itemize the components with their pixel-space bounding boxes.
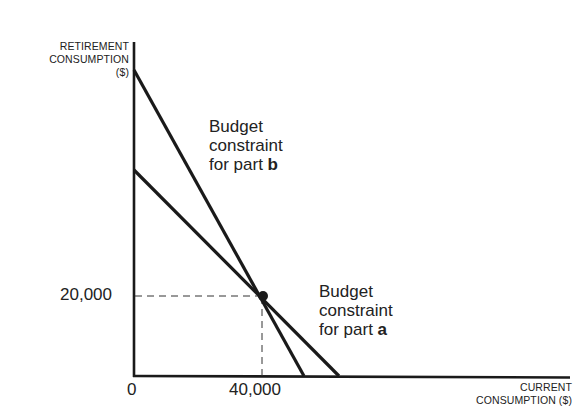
annotation-b-text: for part (209, 155, 268, 174)
annotation-a-line1: Budget (319, 282, 393, 301)
annotation-b-line2: constraint (209, 136, 283, 155)
x-axis-title-line1: CURRENT (476, 381, 572, 394)
budget-line-a (134, 170, 339, 376)
y-axis-title-line2: CONSUMPTION (49, 53, 129, 66)
y-axis-title-line3: ($) (49, 66, 129, 79)
annotation-a-bold: a (378, 320, 387, 339)
y-tick-20000: 20,000 (60, 285, 112, 305)
annotation-budget-b: Budget constraint for part b (209, 117, 283, 174)
annotation-b-bold: b (268, 155, 278, 174)
annotation-budget-a: Budget constraint for part a (319, 282, 393, 339)
y-axis-title: RETIREMENT CONSUMPTION ($) (49, 40, 129, 79)
x-axis-title: CURRENT CONSUMPTION ($) (476, 381, 572, 407)
x-axis (133, 376, 570, 378)
budget-line-b (134, 70, 304, 376)
annotation-a-text: for part (319, 320, 378, 339)
origin-label: 0 (127, 380, 136, 400)
annotation-a-line2: constraint (319, 301, 393, 320)
intersection-point (258, 291, 268, 301)
annotation-a-line3: for part a (319, 320, 393, 339)
x-axis-title-line2: CONSUMPTION ($) (476, 394, 572, 407)
x-tick-40000: 40,000 (229, 380, 281, 400)
annotation-b-line3: for part b (209, 155, 283, 174)
annotation-b-line1: Budget (209, 117, 283, 136)
y-axis-title-line1: RETIREMENT (49, 40, 129, 53)
